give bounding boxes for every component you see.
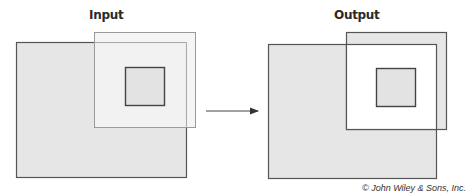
output-panel bbox=[269, 33, 447, 179]
input-panel bbox=[17, 33, 196, 178]
output-inner-square bbox=[377, 69, 416, 107]
copyright-credit: © John Wiley & Sons, Inc. bbox=[362, 183, 466, 194]
input-inner-square bbox=[126, 68, 165, 106]
